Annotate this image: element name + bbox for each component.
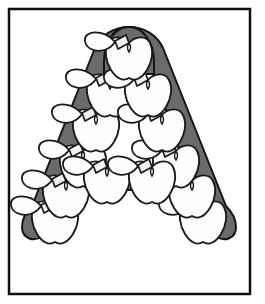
illustration-canvas: Letter A made of apples Black-and-white … (0, 0, 265, 304)
letter-a-apples-illustration: Letter A made of apples Black-and-white … (0, 0, 265, 304)
